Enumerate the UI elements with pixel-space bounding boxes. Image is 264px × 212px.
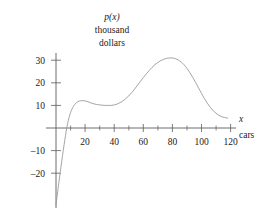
x-tick-label-120: 120: [223, 137, 238, 147]
y-tick-label-20: 20: [36, 78, 46, 88]
y-axis-title-line-1: p(x): [103, 12, 119, 23]
x-axis-unit-label: cars: [239, 130, 255, 140]
chart-figure: p(x) thousand dollars 30 20 10 –10 –20: [0, 0, 264, 212]
plot-svg: p(x) thousand dollars 30 20 10 –10 –20: [0, 0, 264, 212]
x-tick-label-80: 80: [168, 137, 178, 147]
y-tick-label-10: 10: [36, 101, 46, 111]
x-tick-label-60: 60: [139, 137, 149, 147]
profit-curve: [56, 58, 228, 205]
x-axis-symbol-label: x: [238, 114, 244, 124]
y-tick-label-30: 30: [36, 56, 46, 66]
x-tick-label-20: 20: [80, 137, 90, 147]
y-tick-label-minus-10: –10: [30, 146, 46, 156]
y-axis-title-line-3: dollars: [99, 38, 125, 48]
x-tick-label-100: 100: [194, 137, 209, 147]
x-tick-label-40: 40: [109, 137, 119, 147]
y-axis-title-line-2: thousand: [95, 25, 130, 35]
y-tick-label-minus-20: –20: [30, 169, 46, 179]
